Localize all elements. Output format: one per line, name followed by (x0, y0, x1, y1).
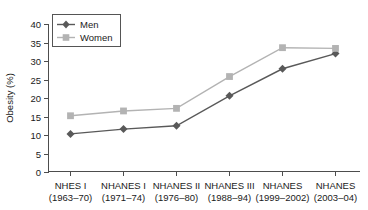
data-point-square (67, 112, 74, 119)
x-tick-label-line2: (2003–04) (314, 192, 357, 203)
y-tick-label: 30 (30, 56, 41, 67)
x-tick-label-line2: (1963–70) (49, 192, 92, 203)
data-point-square (279, 44, 286, 51)
x-tick-label-line1: NHANES (316, 180, 356, 191)
x-tick-label-line1: NHANES (263, 180, 303, 191)
x-tick-label-line1: NHANES I (101, 180, 146, 191)
x-tick-label-line1: NHANES III (204, 180, 254, 191)
y-tick-label: 15 (30, 112, 41, 123)
x-tick-label-line2: (1971–74) (102, 192, 145, 203)
y-axis-title: Obesity (%) (4, 73, 15, 123)
square-marker-icon (63, 34, 70, 41)
y-tick-label: 10 (30, 130, 41, 141)
y-tick-label: 20 (30, 93, 41, 104)
data-point-square (226, 73, 233, 80)
y-tick-label: 5 (36, 149, 41, 160)
data-point-square (173, 105, 180, 112)
x-tick-label-line2: (1999–2002) (256, 192, 310, 203)
x-tick-label-line2: (1988–94) (208, 192, 251, 203)
y-tick-label: 25 (30, 75, 41, 86)
legend: Men Women (53, 15, 121, 47)
data-point-square (120, 108, 127, 115)
y-tick-label: 35 (30, 38, 41, 49)
legend-label-women: Women (80, 32, 113, 43)
x-tick-label-line1: NHANES II (153, 180, 201, 191)
data-point-square (332, 45, 339, 52)
x-tick-label-line2: (1976–80) (155, 192, 198, 203)
obesity-trend-chart: 0 5 10 15 20 25 30 35 40 Obesity (%) (0, 0, 368, 210)
chart-svg: 0 5 10 15 20 25 30 35 40 Obesity (%) (0, 0, 368, 210)
y-tick-label: 0 (36, 167, 41, 178)
legend-label-men: Men (80, 19, 98, 30)
x-tick-label-line1: NHES I (55, 180, 87, 191)
y-tick-label: 40 (30, 19, 41, 30)
